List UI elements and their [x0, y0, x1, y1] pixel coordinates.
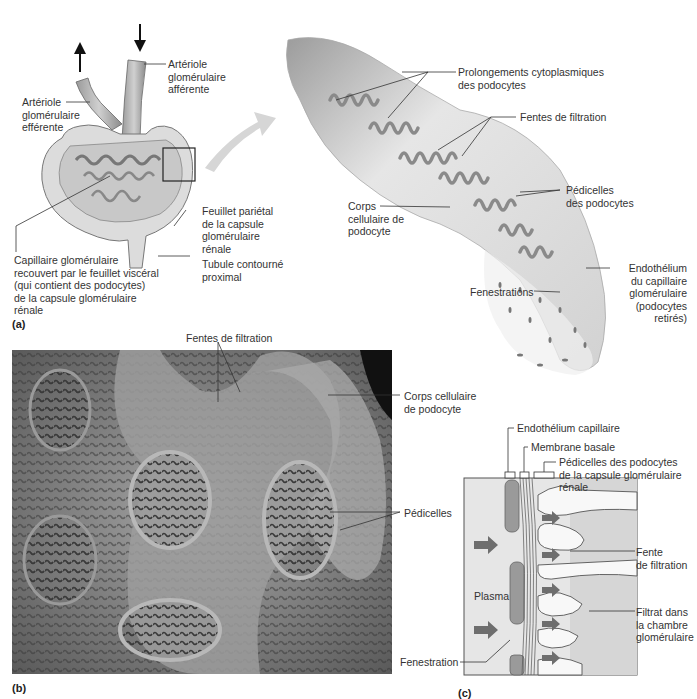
label-basement-membrane: Membrane basale: [531, 441, 615, 454]
panel-tag-b: (b): [12, 682, 26, 694]
label-line: glomérulaire: [168, 71, 226, 84]
label-line: des podocytes: [458, 79, 604, 92]
label-filtration-slit-c: Fente de filtration: [636, 546, 687, 571]
label-line: Pédicelles: [566, 184, 634, 197]
label-line: afférente: [168, 83, 226, 96]
panel-tag-c: (c): [458, 687, 471, 699]
label-cytoplasmic-processes: Prolongements cytoplasmiques des podocyt…: [458, 66, 604, 91]
label-line: Endothélium: [629, 262, 687, 275]
label-line: Prolongements cytoplasmiques: [458, 66, 604, 79]
label-line: glomérulaire: [629, 287, 687, 300]
label-filtration-slits-b: Fentes de filtration: [186, 332, 272, 345]
label-efferent-arteriole: Artériole glomérulaire efférente: [22, 96, 80, 134]
label-line: rénale: [14, 304, 159, 317]
label-pedicels-c: Pédicelles des podocytes de la capsule g…: [559, 456, 682, 494]
label-line: proximal: [202, 271, 283, 284]
label-line: Corps: [348, 200, 404, 213]
label-parietal-layer: Feuillet pariétal de la capsule glomérul…: [202, 205, 273, 255]
label-line: (podocytes: [629, 300, 687, 313]
label-line: rénale: [202, 243, 273, 256]
label-line: Corps cellulaire: [404, 390, 476, 403]
figure-graphics: [0, 0, 697, 699]
label-podocyte-cell-body-b: Corps cellulaire de podocyte: [404, 390, 476, 415]
label-line: de la capsule glomérulaire: [559, 469, 682, 482]
label-fenestrations: Fenestrations: [470, 286, 534, 299]
label-line: efférente: [22, 121, 80, 134]
label-plasma: Plasma: [474, 590, 509, 603]
label-line: Filtrat dans: [636, 606, 694, 619]
label-filtration-slits-a: Fentes de filtration: [520, 111, 606, 124]
label-line: Pédicelles des podocytes: [559, 456, 682, 469]
label-filtrate: Filtrat dans la chambre glomérulaire: [636, 606, 694, 644]
label-line: Artériole: [168, 58, 226, 71]
label-podocyte-cell-body-a: Corps cellulaire de podocyte: [348, 200, 404, 238]
label-line: du capillaire: [629, 275, 687, 288]
label-line: Feuillet pariétal: [202, 205, 273, 218]
panel-tag-a: (a): [12, 318, 25, 330]
label-line: cellulaire de: [348, 213, 404, 226]
label-line: de la capsule glomérulaire: [14, 292, 159, 305]
label-line: Capillaire glomérulaire: [14, 254, 159, 267]
label-line: Fentes de filtration: [520, 111, 606, 124]
label-line: de filtration: [636, 559, 687, 572]
label-line: des podocytes: [566, 197, 634, 210]
label-line: Artériole: [22, 96, 80, 109]
label-line: de podocyte: [404, 403, 476, 416]
label-line: glomérulaire: [22, 109, 80, 122]
zoom-arrow: [205, 112, 276, 172]
label-afferent-arteriole: Artériole glomérulaire afférente: [168, 58, 226, 96]
label-line: la chambre: [636, 619, 694, 632]
label-line: glomérulaire: [636, 631, 694, 644]
label-line: Fenestrations: [470, 286, 534, 299]
label-capillary-endothelium: Endothélium du capillaire glomérulaire (…: [629, 262, 687, 325]
label-line: recouvert par le feuillet viscéral: [14, 267, 159, 280]
label-line: glomérulaire: [202, 230, 273, 243]
label-capillary-endothelium-c: Endothélium capillaire: [517, 422, 620, 435]
label-line: de la capsule: [202, 218, 273, 231]
label-fenestration-c: Fenestration: [400, 656, 458, 669]
label-line: Fente: [636, 546, 687, 559]
label-line: retirés): [629, 312, 687, 325]
glomerular-capsule: [42, 125, 195, 268]
label-line: podocyte: [348, 225, 404, 238]
label-glomerular-capillary: Capillaire glomérulaire recouvert par le…: [14, 254, 159, 317]
label-line: rénale: [559, 481, 682, 494]
label-pedicels-b: Pédicelles: [404, 507, 452, 520]
label-line: Tubule contourné: [202, 258, 283, 271]
label-podocyte-pedicels: Pédicelles des podocytes: [566, 184, 634, 209]
label-line: (qui contient des podocytes): [14, 279, 159, 292]
label-proximal-tubule: Tubule contourné proximal: [202, 258, 283, 283]
